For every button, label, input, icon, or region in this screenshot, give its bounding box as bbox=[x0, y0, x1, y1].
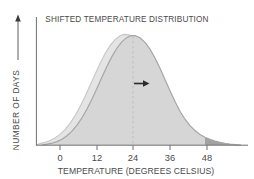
x-axis-ticks bbox=[60, 145, 207, 150]
x-tick-label-48: 48 bbox=[202, 153, 212, 163]
chart-title: SHIFTED TEMPERATURE DISTRIBUTION bbox=[45, 15, 208, 24]
temperature-distribution-chart: SHIFTED TEMPERATURE DISTRIBUTION bbox=[0, 0, 254, 179]
chart-figure: SHIFTED TEMPERATURE DISTRIBUTION bbox=[0, 0, 254, 179]
x-tick-label-0: 0 bbox=[57, 153, 62, 163]
x-tick-label-24: 24 bbox=[128, 153, 138, 163]
y-axis-label: NUMBER OF DAYS bbox=[11, 70, 21, 150]
x-tick-label-12: 12 bbox=[92, 153, 102, 163]
y-axis-arrow-icon bbox=[15, 15, 21, 61]
x-axis-label: TEMPERATURE (DEGREES CELSIUS) bbox=[58, 166, 215, 176]
x-tick-label-36: 36 bbox=[165, 153, 175, 163]
